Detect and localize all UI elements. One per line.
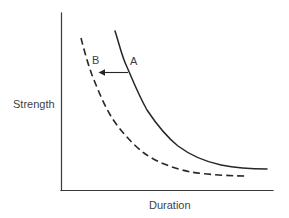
arrow-head [99,69,106,75]
strength-duration-figure: Strength Duration B A [0,0,289,218]
x-axis-label: Duration [149,199,191,211]
curve-b-path [81,38,248,176]
leftward-shift-arrow [99,69,129,75]
y-axis-label: Strength [13,98,55,110]
curve-b-label: B [92,54,99,66]
curve-a-label: A [130,55,137,67]
